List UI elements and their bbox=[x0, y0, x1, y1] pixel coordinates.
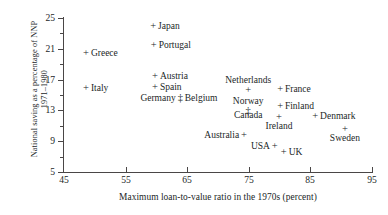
data-point: + France bbox=[277, 84, 311, 95]
data-point-label: Finland bbox=[283, 101, 314, 111]
data-point-label: Germany bbox=[140, 93, 177, 103]
data-point-label: Italy bbox=[89, 83, 108, 93]
data-point-label: Sweden bbox=[330, 133, 360, 143]
data-point-label: Spain bbox=[158, 82, 182, 92]
data-point-label: Portugal bbox=[157, 40, 191, 50]
y-tick-label: 17 bbox=[31, 74, 55, 85]
data-point: + Japan bbox=[150, 21, 179, 32]
data-point: Belgium bbox=[183, 93, 218, 104]
y-tick-label: 25 bbox=[31, 12, 55, 23]
data-point-label: Japan bbox=[156, 21, 180, 31]
data-point-label: Austria bbox=[158, 71, 188, 81]
y-tick-major bbox=[58, 110, 64, 111]
y-tick-major bbox=[58, 80, 64, 81]
data-point: + Portugal bbox=[151, 40, 191, 51]
y-tick-minor bbox=[60, 126, 64, 127]
data-point-label: France bbox=[283, 84, 311, 94]
y-tick-minor bbox=[60, 95, 64, 96]
data-point-marker: + bbox=[330, 124, 360, 133]
x-tick-major bbox=[310, 167, 311, 173]
y-axis-title: National saving as a percentage of NNP 1… bbox=[0, 0, 34, 180]
y-tick-major bbox=[58, 172, 64, 173]
data-point-marker: + bbox=[272, 140, 278, 151]
data-point-label: USA bbox=[251, 141, 272, 151]
x-tick-major bbox=[187, 167, 188, 173]
data-point: + Austria bbox=[152, 71, 188, 82]
scatter-plot-figure: National saving as a percentage of NNP 1… bbox=[0, 0, 388, 215]
y-tick-major bbox=[58, 141, 64, 142]
y-axis-title-line2: 1971–1980 bbox=[40, 0, 50, 178]
data-point: Netherlands+ bbox=[225, 74, 271, 93]
data-point: + UK bbox=[281, 147, 303, 158]
y-axis-title-line1: National saving as a percentage of NNP bbox=[30, 0, 40, 178]
x-axis-title: Maximum loan-to-value ratio in the 1970s… bbox=[64, 192, 372, 202]
x-tick-major bbox=[249, 167, 250, 173]
data-point-label: UK bbox=[287, 147, 303, 157]
y-tick-label: 9 bbox=[31, 135, 55, 146]
y-tick-label: 21 bbox=[31, 43, 55, 54]
x-tick-label: 85 bbox=[295, 174, 325, 185]
y-tick-minor bbox=[60, 33, 64, 34]
data-point-label: Denmark bbox=[318, 111, 355, 121]
data-point-marker: + bbox=[241, 129, 247, 140]
data-point-label: Belgium bbox=[183, 93, 218, 103]
y-tick-major bbox=[58, 49, 64, 50]
data-point: + Denmark bbox=[312, 111, 355, 122]
x-tick-label: 55 bbox=[111, 174, 141, 185]
data-point: +Sweden bbox=[330, 124, 360, 143]
x-tick-label: 45 bbox=[49, 174, 79, 185]
data-point: USA + bbox=[251, 141, 278, 152]
data-point-label: Ireland bbox=[266, 120, 293, 130]
data-point: + Greece bbox=[83, 47, 118, 58]
x-tick-label: 75 bbox=[234, 174, 264, 185]
data-point: Germany ‡ bbox=[140, 93, 183, 104]
data-point: + Italy bbox=[83, 83, 108, 94]
y-tick-minor bbox=[60, 64, 64, 65]
data-point-marker: + bbox=[225, 84, 271, 93]
data-point-label: Greece bbox=[89, 47, 118, 57]
x-tick-label: 65 bbox=[172, 174, 202, 185]
data-point-label: Australia bbox=[204, 130, 241, 140]
data-point: Canada bbox=[234, 110, 263, 120]
y-tick-minor bbox=[60, 157, 64, 158]
x-tick-major bbox=[372, 167, 373, 173]
data-point-marker: + bbox=[266, 111, 293, 120]
y-tick-label: 13 bbox=[31, 104, 55, 115]
data-point-label: Canada bbox=[234, 110, 263, 120]
x-axis-line bbox=[63, 172, 373, 173]
x-tick-label: 95 bbox=[357, 174, 387, 185]
x-tick-major bbox=[126, 167, 127, 173]
data-point: +Ireland bbox=[266, 111, 293, 130]
y-tick-major bbox=[58, 18, 64, 19]
data-point: + Finland bbox=[277, 101, 314, 112]
data-point: Australia + bbox=[204, 130, 247, 141]
